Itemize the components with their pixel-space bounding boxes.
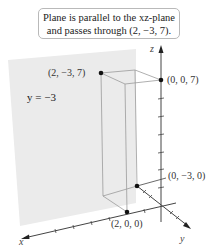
y-axis [137,186,188,226]
callout-box: Plane is parallel to the xz-plane and pa… [38,8,180,39]
point-label-2-neg3-7: (2, −3, 7) [48,67,85,78]
point-0-neg3-0 [135,184,140,189]
x-axis-label: x [19,236,23,247]
z-axis-label: z [150,43,154,54]
y-axis-label: y [180,233,184,244]
callout-line-2: and passes through (2, −3, 7). [39,24,179,37]
point-label-2-0-0: (2, 0, 0) [111,218,143,229]
point-2-neg3-7 [99,71,104,76]
point-0-0-7 [159,78,164,83]
z-axis-arrow-icon [159,45,164,53]
callout-line-1: Plane is parallel to the xz-plane [39,11,179,24]
point-label-0-0-7: (0, 0, 7) [167,74,199,85]
point-2-0-0 [125,210,130,215]
point-label-0-neg3-0: (0, −3, 0) [168,170,205,181]
plane-equation-label: y = −3 [27,91,56,103]
